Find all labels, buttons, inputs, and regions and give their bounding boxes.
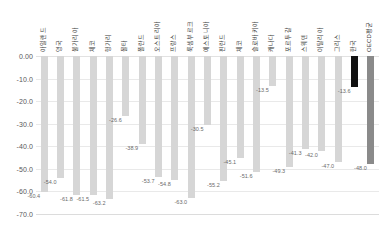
bar (106, 56, 113, 199)
bar-series (36, 56, 379, 214)
bar-chart: 0.00-10.0-20.0-30.0-40.0-50.0-60.0-70.0 … (0, 0, 383, 238)
bar-column (73, 56, 80, 214)
bar (237, 56, 244, 158)
bar-value-label: -42.0 (305, 152, 318, 158)
bar-column (269, 56, 276, 214)
bar-column (253, 56, 260, 214)
y-axis-tick-label: -40.0 (0, 143, 33, 150)
bar-value-label: -63.2 (93, 200, 106, 206)
bar-value-label: -45.1 (223, 159, 236, 165)
category-label: 체코 (87, 40, 96, 52)
bar (90, 56, 97, 195)
bar-value-label: -61.8 (60, 196, 73, 202)
category-label: 체코 (234, 40, 243, 52)
bar (253, 56, 260, 172)
bar-value-label: -13.5 (256, 87, 269, 93)
bar-value-label: -13.6 (338, 88, 351, 94)
bar (41, 56, 48, 192)
bar (73, 56, 80, 195)
bar-value-label: -38.9 (125, 145, 138, 151)
y-axis-tick-label: 0.00 (0, 53, 33, 60)
bar-column (155, 56, 162, 214)
category-label: 핀란드 (217, 33, 226, 52)
bar-column (220, 56, 227, 214)
y-axis-tick-label: -20.0 (0, 98, 33, 105)
bar-column (335, 56, 342, 214)
bar-value-label: -48.0 (354, 165, 367, 171)
bar-column (41, 56, 48, 214)
bar-value-label: -47.0 (321, 163, 334, 169)
category-label: 아일랜드 (38, 27, 47, 52)
category-label: 오스트리아 (152, 21, 161, 52)
bar (302, 56, 309, 149)
category-label: 스웨덴 (299, 33, 308, 52)
bar-column (286, 56, 293, 214)
bar-value-label: -60.4 (27, 193, 40, 199)
bar-column (106, 56, 113, 214)
plot-area: -60.4-54.0-61.8-61.5-63.2-26.6-38.9-53.7… (36, 56, 379, 214)
bar-column (90, 56, 97, 214)
category-label: 에스토니아 (201, 21, 210, 52)
bar (122, 56, 129, 116)
bar-column (237, 56, 244, 214)
bar-value-label: -61.5 (76, 196, 89, 202)
bar-column (171, 56, 178, 214)
bar-column (188, 56, 195, 214)
bar (351, 56, 358, 87)
category-label: 몰타 (119, 40, 128, 52)
category-label: 불가리아 (70, 27, 79, 52)
bar (155, 56, 162, 177)
bar (204, 56, 211, 125)
category-label: 헝가리 (103, 33, 112, 52)
bar-value-label: -49.3 (272, 168, 285, 174)
bar (269, 56, 276, 86)
bar (57, 56, 64, 178)
category-label: 프랑스 (168, 33, 177, 52)
category-label: 이탈리아 (315, 27, 324, 52)
y-axis-tick-label: -50.0 (0, 165, 33, 172)
y-axis-tick-label: -70.0 (0, 211, 33, 218)
category-label: 포르투갈 (283, 27, 292, 52)
category-label: 폴란드 (136, 33, 145, 52)
bar-column (57, 56, 64, 214)
bar-value-label: -30.5 (191, 126, 204, 132)
bar-column (302, 56, 309, 214)
category-label: 영국 (54, 40, 63, 52)
y-axis-tick-label: -10.0 (0, 75, 33, 82)
gridline (36, 214, 379, 215)
bar-column (139, 56, 146, 214)
bar-value-label: -53.7 (142, 178, 155, 184)
bar-column (204, 56, 211, 214)
category-label: 룩셈부르크 (185, 21, 194, 52)
bar-value-label: -54.0 (44, 179, 57, 185)
bar (335, 56, 342, 162)
bar-value-label: -63.0 (174, 199, 187, 205)
bar-column (122, 56, 129, 214)
category-label: OECD평균 (364, 21, 373, 52)
bar-column (367, 56, 374, 214)
category-label: 한국 (348, 40, 357, 52)
bar (139, 56, 146, 144)
bar (318, 56, 325, 151)
category-label: 캐나다 (266, 33, 275, 52)
bar-value-label: -26.6 (109, 117, 122, 123)
y-axis-tick-label: -30.0 (0, 120, 33, 127)
bar-value-label: -51.6 (240, 173, 253, 179)
category-label: 그리스 (332, 33, 341, 52)
bar-value-label: -55.2 (207, 182, 220, 188)
bar (171, 56, 178, 180)
category-label: 슬로바키아 (250, 21, 259, 52)
bar (367, 56, 374, 164)
bar-column (318, 56, 325, 214)
bar-column (351, 56, 358, 214)
bar-value-label: -41.3 (289, 150, 302, 156)
bar-value-label: -54.8 (158, 181, 171, 187)
